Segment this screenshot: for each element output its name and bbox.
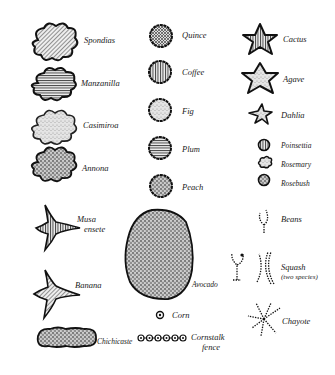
label-manzanilla: Manzanilla: [81, 79, 120, 88]
plum-symbol: [149, 137, 171, 159]
label-banana: Banana: [75, 281, 101, 290]
peach-symbol: [150, 175, 172, 197]
label-chichicaste: Chichicaste: [97, 337, 132, 346]
label-two-species: (two species): [281, 273, 318, 282]
chichicaste-symbol: [38, 328, 96, 348]
banana-symbol: [34, 270, 80, 318]
avocado-symbol: [125, 210, 192, 299]
dahlia-symbol: [249, 104, 272, 124]
coffee-symbol: [149, 61, 171, 83]
agave-symbol: [242, 63, 278, 93]
rosemary-symbol: [259, 157, 272, 168]
quince-symbol: [150, 25, 172, 47]
label-fence: fence: [202, 343, 220, 352]
label-fig: Fig: [182, 107, 194, 116]
squash-bud: [240, 253, 243, 256]
cactus-symbol: [243, 24, 277, 54]
label-agave: Agave: [283, 75, 304, 84]
label-cactus: Cactus: [283, 35, 307, 44]
label-quince: Quince: [182, 31, 207, 40]
fig-symbol: [149, 99, 171, 121]
label-squash: Squash: [281, 263, 306, 272]
label-cornstalk: Cornstalk: [191, 333, 225, 342]
annona-symbol: [32, 147, 77, 181]
label-poinsettia: Poinsettia: [281, 141, 311, 150]
chayote-symbol: [248, 303, 280, 336]
musa-ensete-symbol: [36, 205, 80, 250]
casimiroa-symbol: [32, 110, 77, 144]
label-chayote: Chayote: [282, 317, 310, 326]
label-musa: Musa: [77, 215, 96, 224]
poinsettia-symbol: [259, 140, 270, 151]
label-corn: Corn: [172, 311, 189, 320]
label-ensete: ensete: [84, 225, 105, 234]
spondias-symbol: [33, 23, 78, 60]
label-annona: Annona: [82, 164, 108, 173]
corn-symbol: [157, 312, 164, 319]
label-rosebush: Rosebush: [281, 179, 310, 188]
label-beans: Beans: [281, 215, 302, 224]
cornstalk-fence-symbol: [138, 335, 186, 341]
label-casimiroa: Casimiroa: [83, 121, 119, 130]
label-dahlia: Dahlia: [281, 111, 305, 120]
squash-symbol-b: [257, 252, 274, 284]
rosebush-symbol: [259, 175, 270, 186]
label-spondias: Spondias: [84, 36, 115, 45]
label-plum: Plum: [182, 145, 200, 154]
manzanilla-symbol: [32, 68, 76, 100]
squash-symbol-a: [232, 253, 243, 280]
label-avocado: Avocado: [192, 280, 218, 289]
label-rosemary: Rosemary: [281, 160, 311, 169]
beans-symbol: [260, 210, 268, 233]
label-peach: Peach: [182, 183, 203, 192]
label-coffee: Coffee: [182, 68, 204, 77]
